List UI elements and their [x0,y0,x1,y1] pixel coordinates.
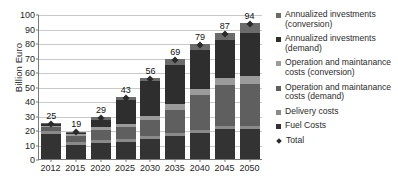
legend-label: Fuel Costs [285,121,326,131]
legend-square-icon [276,86,281,91]
bar-segment[interactable] [165,110,185,133]
bar-value-label: 29 [96,105,106,115]
plot-area: 0102030405060708090100 25192943566979879… [38,15,262,160]
legend-label: Total [286,136,304,146]
x-axis-tick-label: 2012 [40,163,60,173]
bar-group[interactable]: 43 [116,15,136,159]
y-axis-tick-label: 90 [25,25,35,35]
bar-segment[interactable] [165,136,185,159]
bar-segment[interactable] [240,84,260,126]
legend-label: Operation and maintanance costs (convers… [285,58,394,77]
y-axis-tick-mark [36,160,39,161]
x-axis-tick-mark [51,159,52,162]
legend-label: Annualized investments (conversion) [285,10,394,29]
bar-value-label: 43 [121,85,131,95]
x-axis-tick-label: 2025 [115,163,135,173]
legend-item[interactable]: Operation and maintanance costs (convers… [276,58,394,77]
legend-item[interactable]: Operation and maintanance costs (demand) [276,83,394,102]
chart-legend: Annualized investments (conversion)Annua… [276,10,394,151]
y-axis-tick-label: 20 [25,126,35,136]
x-axis-tick-labels: 201220152020202520302035204020452050 [38,163,262,173]
bar-segment[interactable] [215,78,235,85]
bar-segment[interactable] [240,76,260,83]
bar-segment[interactable] [190,50,210,89]
bar-segment[interactable] [116,127,136,139]
x-axis-tick-mark [199,159,200,162]
x-axis-tick-mark [224,159,225,162]
legend-label: Operation and maintanance costs (demand) [285,83,394,102]
x-axis-tick-label: 2040 [190,163,210,173]
bar-segment[interactable] [190,133,210,159]
x-axis-tick-mark [175,159,176,162]
y-axis-tick-label: 80 [25,39,35,49]
bar-group[interactable]: 69 [165,15,185,159]
legend-square-icon [276,124,281,129]
y-axis-tick-label: 10 [25,141,35,151]
bar-group[interactable]: 87 [215,15,235,159]
legend-label: Delivery costs [285,107,338,117]
bar-group[interactable]: 29 [91,15,111,159]
legend-item[interactable]: Total [276,136,394,146]
bar-segment[interactable] [215,40,235,78]
bar-segment[interactable] [215,129,235,159]
bar-segment[interactable] [41,134,61,159]
stacked-bar-chart: Billion Euro 0102030405060708090100 2519… [0,0,398,191]
legend-diamond-icon [276,138,282,144]
bar-group[interactable]: 94 [240,15,260,159]
bar-segment[interactable] [116,142,136,159]
x-axis-tick-label: 2035 [165,163,185,173]
x-axis-tick-label: 2045 [215,163,235,173]
bar-group[interactable]: 79 [190,15,210,159]
legend-item[interactable]: Annualized investments (demand) [276,34,394,53]
legend-item[interactable]: Fuel Costs [276,121,394,131]
y-axis-tick-label: 40 [25,97,35,107]
bar-group[interactable]: 19 [66,15,86,159]
x-axis-tick-mark [125,159,126,162]
x-axis-tick-label: 2050 [239,163,259,173]
bar-segment[interactable] [91,143,111,159]
legend-square-icon [276,13,281,18]
y-axis-tick-label: 70 [25,54,35,64]
bar-segment[interactable] [140,81,160,116]
bar-series-container: 251929435669798794 [39,15,262,159]
x-axis-tick-label: 2020 [90,163,110,173]
bar-segment[interactable] [165,65,185,104]
bar-group[interactable]: 56 [140,15,160,159]
legend-label: Annualized investments (demand) [285,34,394,53]
bar-segment[interactable] [140,120,160,136]
bar-value-label: 79 [195,32,205,42]
x-axis-tick-label: 2030 [140,163,160,173]
bar-segment[interactable] [240,129,260,159]
bar-value-label: 19 [71,119,81,129]
bar-value-label: 69 [170,47,180,57]
x-axis-tick-mark [76,159,77,162]
bar-segment[interactable] [215,85,235,126]
legend-square-icon [276,37,281,42]
bar-group[interactable]: 25 [41,15,61,159]
y-axis-tick-label: 100 [20,10,35,20]
bar-segment[interactable] [116,100,136,125]
y-axis-title: Billion Euro [13,28,24,108]
bar-segment[interactable] [190,95,210,130]
bar-value-label: 56 [145,66,155,76]
x-axis-tick-mark [249,159,250,162]
y-axis-tick-label: 30 [25,112,35,122]
x-axis-tick-mark [150,159,151,162]
y-axis-tick-label: 0 [30,155,35,165]
y-axis-tick-label: 60 [25,68,35,78]
legend-square-icon [276,110,281,115]
bar-segment[interactable] [140,139,160,159]
bar-segment[interactable] [240,33,260,77]
bar-value-label: 87 [220,21,230,31]
bar-value-label: 25 [46,111,56,121]
legend-item[interactable]: Annualized investments (conversion) [276,10,394,29]
legend-square-icon [276,61,281,66]
legend-item[interactable]: Delivery costs [276,107,394,117]
bar-segment[interactable] [66,145,86,160]
bar-value-label: 94 [244,11,254,21]
y-axis-tick-label: 50 [25,83,35,93]
x-axis-tick-mark [100,159,101,162]
x-axis-tick-label: 2015 [65,163,85,173]
bar-segment[interactable] [91,130,111,140]
